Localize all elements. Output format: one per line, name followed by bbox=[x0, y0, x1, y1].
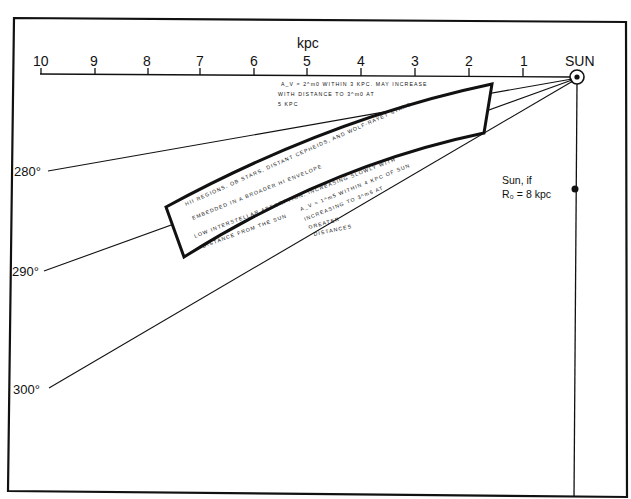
tick-4: 4 bbox=[357, 53, 365, 69]
line-300 bbox=[49, 81, 573, 388]
tick-8: 8 bbox=[143, 53, 151, 69]
galactic-diagram: kpc 10 9 8 7 6 5 4 3 2 1 SUN 280° 290° 3… bbox=[0, 0, 631, 499]
tick-3: 3 bbox=[411, 53, 419, 69]
tick-7: 7 bbox=[196, 53, 204, 69]
alt-sun-position-marker bbox=[572, 186, 579, 193]
distance-axis bbox=[40, 74, 572, 77]
alt-sun-label-line1: Sun, if bbox=[502, 174, 532, 186]
tick-6: 6 bbox=[250, 53, 258, 69]
longitude-290-label: 290° bbox=[12, 264, 39, 279]
tick-5: 5 bbox=[303, 53, 311, 69]
alt-sun-label-line2: R₀ = 8 kpc bbox=[502, 188, 551, 200]
tick-2: 2 bbox=[465, 53, 473, 69]
longitude-300-label: 300° bbox=[13, 382, 40, 397]
frame-border bbox=[8, 18, 627, 497]
tick-9: 9 bbox=[90, 53, 98, 69]
axis-tick-labels: 10 9 8 7 6 5 4 3 2 1 bbox=[33, 53, 528, 69]
svg-text:A_V ≈ 2^m0 WITHIN 3 KPC. MAY I: A_V ≈ 2^m0 WITHIN 3 KPC. MAY INCREASE bbox=[281, 81, 428, 87]
sun-label: SUN bbox=[565, 53, 595, 69]
axis-unit-label: kpc bbox=[297, 35, 319, 51]
longitude-lines bbox=[44, 79, 573, 388]
svg-text:WITH DISTANCE TO 3^m0 AT: WITH DISTANCE TO 3^m0 AT bbox=[278, 91, 375, 97]
longitude-280-label: 280° bbox=[14, 164, 41, 179]
sun-dot-icon bbox=[574, 74, 579, 79]
svg-text:5 KPC: 5 KPC bbox=[278, 101, 299, 107]
galactic-center-direction-line bbox=[574, 84, 577, 497]
tick-10: 10 bbox=[33, 53, 49, 69]
tick-1: 1 bbox=[520, 53, 528, 69]
